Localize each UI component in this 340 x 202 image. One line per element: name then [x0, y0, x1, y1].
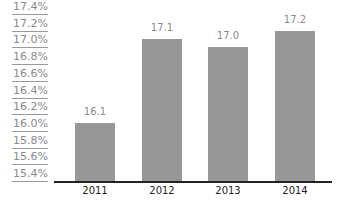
bar-2013 [208, 47, 248, 181]
x-tick-label: 2013 [208, 185, 248, 196]
y-tick-label: 17.4% [12, 1, 48, 15]
y-tick-label: 16.8% [12, 51, 48, 65]
bar-2011 [75, 123, 115, 181]
bar-value-label: 17.2 [275, 14, 315, 25]
y-tick-label: 16.6% [12, 68, 48, 82]
x-tick-label: 2011 [75, 185, 115, 196]
bar-2012 [142, 39, 182, 181]
x-axis-baseline [54, 181, 332, 183]
y-tick-label: 16.4% [12, 85, 48, 99]
y-tick-label: 16.0% [12, 118, 48, 132]
y-tick-label: 17.0% [12, 34, 48, 48]
y-tick-label: 15.6% [12, 151, 48, 165]
x-tick-label: 2012 [142, 185, 182, 196]
bar-value-label: 17.0 [208, 30, 248, 41]
bar-2014 [275, 31, 315, 181]
y-tick-label: 15.4% [12, 168, 48, 182]
x-tick-label: 2014 [275, 185, 315, 196]
y-tick-label: 17.2% [12, 18, 48, 32]
bar-value-label: 17.1 [142, 22, 182, 33]
bar-chart: 17.4%17.2%17.0%16.8%16.6%16.4%16.2%16.0%… [0, 0, 340, 202]
y-tick-label: 15.8% [12, 135, 48, 149]
bar-value-label: 16.1 [75, 106, 115, 117]
y-tick-label: 16.2% [12, 101, 48, 115]
